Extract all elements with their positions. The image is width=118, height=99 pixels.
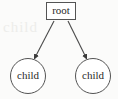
node-child-left[interactable]: child: [11, 59, 46, 94]
tree-svg-canvas: root child child: [0, 0, 118, 99]
edge-root-to-left-child[interactable]: [35, 21, 55, 59]
edge-root-to-right-child[interactable]: [68, 21, 87, 59]
child-right-node-label: child: [82, 69, 104, 81]
tree-diagram: child root child child: [0, 0, 118, 99]
root-node-label: root: [52, 4, 70, 16]
node-root[interactable]: root: [47, 3, 76, 20]
edge-left-line: [35, 21, 55, 59]
child-left-node-label: child: [17, 69, 39, 81]
edge-right-line: [68, 21, 87, 59]
node-child-right[interactable]: child: [76, 59, 111, 94]
